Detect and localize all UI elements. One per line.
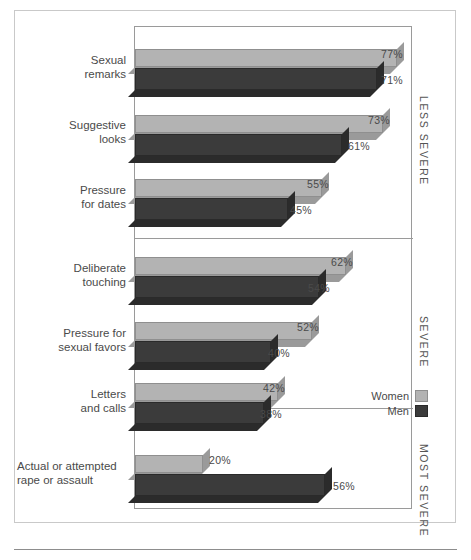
bar-face	[135, 341, 271, 363]
bar-face	[135, 322, 312, 340]
severity-label-less-severe: LESS SEVERE	[418, 96, 430, 186]
value-label-men-letters-and-calls: 38%	[260, 408, 282, 420]
bar-face	[135, 257, 346, 275]
legend-row-women: Women	[330, 388, 428, 403]
value-label-men-suggestive-looks: 61%	[348, 140, 370, 152]
category-label-sexual-remarks: Sexual remarks	[30, 53, 126, 81]
bar-men-pressure-for-sexual-favors	[135, 341, 271, 363]
value-label-women-rape-or-assault: 20%	[209, 454, 231, 466]
value-label-men-deliberate-touching: 54%	[308, 282, 330, 294]
value-label-women-letters-and-calls: 42%	[263, 382, 285, 394]
bar-men-pressure-for-dates	[135, 198, 288, 220]
bar-men-deliberate-touching	[135, 276, 319, 298]
bar-face	[135, 276, 319, 298]
plot-inner	[135, 27, 411, 508]
figure-bottom-rule	[14, 549, 457, 550]
bar-men-suggestive-looks	[135, 134, 342, 156]
bar-bottom-3d	[128, 220, 288, 227]
bar-women-sexual-remarks	[135, 49, 397, 67]
bar-face	[135, 383, 278, 401]
value-label-men-sexual-remarks: 71%	[381, 74, 403, 86]
bar-face	[135, 402, 264, 424]
value-label-men-pressure-for-sexual-favors: 40%	[268, 347, 290, 359]
bar-women-pressure-for-sexual-favors	[135, 322, 312, 340]
value-label-women-pressure-for-dates: 55%	[307, 178, 329, 190]
bar-bottom-3d	[128, 496, 325, 503]
bar-bottom-3d	[128, 424, 264, 431]
category-label-pressure-for-dates: Pressure for dates	[30, 183, 126, 211]
legend-label-women: Women	[371, 390, 409, 402]
legend-swatch-women-icon	[415, 390, 428, 402]
bar-women-letters-and-calls	[135, 383, 278, 401]
value-label-men-rape-or-assault: 56%	[333, 480, 355, 492]
category-label-letters-and-calls: Letters and calls	[30, 387, 126, 415]
bar-face	[135, 474, 325, 496]
bar-face	[135, 134, 342, 156]
category-label-pressure-for-sexual-favors: Pressure for sexual favors	[20, 326, 126, 354]
bar-face	[135, 68, 377, 90]
bar-side-3d	[325, 467, 332, 496]
bar-bottom-3d	[128, 156, 342, 163]
legend-row-men: Men	[330, 403, 428, 418]
severity-label-most-severe: MOST SEVERE	[418, 444, 430, 537]
legend-swatch-men-icon	[415, 405, 428, 417]
group-separator-less-severe	[135, 238, 413, 239]
bar-men-letters-and-calls	[135, 402, 264, 424]
bar-bottom-3d	[128, 90, 377, 97]
category-label-rape-or-assault: Actual or attempted rape or assault	[17, 459, 132, 487]
bar-men-rape-or-assault	[135, 474, 325, 496]
sexual-harassment-bar-chart: 77% 71% 73% 61% 55% 45% 62% 54% 52% 40% …	[0, 0, 471, 560]
value-label-men-pressure-for-dates: 45%	[290, 204, 312, 216]
value-label-women-deliberate-touching: 62%	[331, 256, 353, 268]
value-label-women-sexual-remarks: 77%	[381, 48, 403, 60]
value-label-women-pressure-for-sexual-favors: 52%	[297, 321, 319, 333]
category-label-deliberate-touching: Deliberate touching	[30, 261, 126, 289]
bar-men-sexual-remarks	[135, 68, 377, 90]
bar-face	[135, 198, 288, 220]
chart-legend: Women Men	[330, 388, 428, 418]
bar-bottom-3d	[128, 298, 319, 305]
plot-area-frame	[134, 26, 412, 509]
bar-face	[135, 49, 397, 67]
legend-label-men: Men	[388, 405, 409, 417]
bar-women-rape-or-assault	[135, 455, 203, 473]
value-label-women-suggestive-looks: 73%	[368, 114, 390, 126]
bar-bottom-3d	[128, 363, 271, 370]
severity-label-severe: SEVERE	[418, 316, 430, 368]
bar-face	[135, 455, 203, 473]
category-label-suggestive-looks: Suggestive looks	[30, 118, 126, 146]
bar-women-deliberate-touching	[135, 257, 346, 275]
